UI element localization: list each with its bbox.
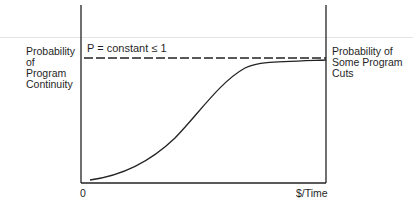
right-axis-label: Probability of Some Program Cuts xyxy=(332,46,412,79)
origin-tick-label: 0 xyxy=(80,188,86,199)
left-axis-label: Probability of Program Continuity xyxy=(26,46,78,90)
constant-annotation: P = constant ≤ 1 xyxy=(87,43,167,54)
plot-area xyxy=(0,0,413,212)
program-cuts-curve xyxy=(90,60,326,180)
x-axis-label: $/Time xyxy=(296,188,328,199)
